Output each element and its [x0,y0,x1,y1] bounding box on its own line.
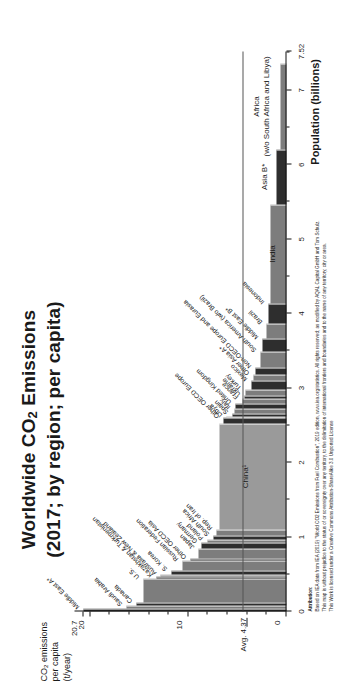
x-tick [286,610,291,611]
bar-france [242,398,286,403]
y-tick-label: 10 [174,611,183,620]
x-tick-label: 7.52 [296,43,305,59]
bar-label-brazil: Brazil [247,309,264,326]
x-tick-label: 4 [296,311,305,315]
bar-s-korea [171,571,286,575]
x-axis [285,51,286,611]
bar-china [219,423,286,529]
x-tick-label: 0 [296,609,305,613]
chart-poster: Worldwide CO2 Emissions (2017; by region… [0,0,351,697]
x-tick [286,312,291,313]
x-tick-label: 2 [296,460,305,464]
bar-mexico [251,380,286,389]
y-tick [285,611,286,616]
title-line-1: Worldwide CO2 Emissions [17,309,38,548]
plot-area: 012345677.5220.720100 Middle East A*Saud… [74,51,286,611]
bar-indonesia [268,303,286,323]
x-tick [286,50,291,51]
bar-label-middle-east-a: Middle East A* [45,575,80,610]
x-tick [286,89,291,90]
average-line [242,51,243,611]
x-tick-label: 3 [296,385,305,389]
attribution: Attribution: Based on IEA data from IEA … [306,11,334,611]
x-tick [286,387,291,388]
y-axis [74,610,286,611]
bar-other-oecd-europe [223,417,286,423]
bar-other-asia-a [253,374,286,380]
bar-south-africa [213,535,286,539]
y-tick-label: 0 [273,616,282,620]
title-line-2: (2017; by region; per capita) [41,279,65,579]
attribution-line-3: This Work is licensed under a Creative C… [327,11,334,611]
bar-u-s [143,578,286,602]
x-tick [286,238,291,239]
y-axis-title: CO2 emissions per capita (t/year) [38,622,72,681]
y-tick [89,611,90,616]
x-tick-label: 1 [296,534,305,538]
bar-south-america-w-o-brazil [260,351,286,367]
x-tick [286,163,291,164]
bar-non-oecd-europe-and-eurasia [255,367,286,374]
x-tick [286,536,291,537]
y-tick [187,611,188,616]
x-tick-label: 6 [296,162,305,166]
bar-label-india: India [267,245,276,262]
bar-turkey [245,389,286,395]
y-tick-label: 20 [76,611,85,620]
x-tick-label: 5 [296,236,305,240]
x-tick [286,461,291,462]
page-title: Worldwide CO2 Emissions (2017; by region… [16,279,65,579]
bar-label-asia-b: Asia B* [259,163,268,189]
bar-spain [232,413,286,416]
attribution-line-1: Based on IEA data from IEA (2019) "World… [313,11,320,611]
x-tick-label: 7 [296,88,305,92]
attribution-line-2: This map is without prejudice to the sta… [320,11,327,611]
bar-label-indonesia: Indonesia [240,281,265,306]
bar-rep-of-iran [216,529,286,535]
attribution-heading: Attribution: [306,11,313,611]
bar-brazil [266,323,286,339]
bar-middle-east-b [262,338,286,351]
bar-russian-federation [182,560,286,571]
average-label: Avg. 4.37 [238,617,247,651]
bar-label-africa-w-o-south-africa-and-libya: Africa(w/o South Africa and Libya) [251,56,270,156]
